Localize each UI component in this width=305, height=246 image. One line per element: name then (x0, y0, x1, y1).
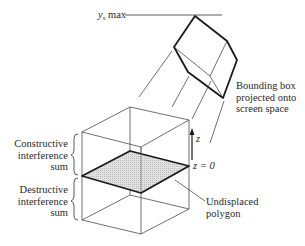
bounding-box-line-1: Bounding box (236, 80, 296, 92)
destructive-label: Destructive interference sum (4, 184, 68, 219)
constructive-line-1: Constructive (4, 138, 68, 150)
bounding-box-line-3: screen space (236, 103, 296, 115)
constructive-brace (71, 134, 78, 175)
undisplaced-polygon-label: Undisplaced polygon (206, 196, 259, 219)
constructive-label: Constructive interference sum (4, 138, 68, 173)
projection-line (192, 81, 211, 119)
constructive-line-3: sum (4, 161, 68, 173)
ys-max-rest: max (105, 9, 126, 20)
destructive-line-2: interference (4, 196, 68, 208)
projection-line (139, 51, 172, 97)
bounding-box-line-2: projected onto (236, 92, 296, 104)
projection-line (210, 101, 224, 143)
projection-line (172, 76, 189, 107)
z-axis-label: z (196, 133, 200, 145)
diagram-canvas: ys max Bounding box projected onto scree… (0, 0, 305, 246)
undisplaced-polygon (82, 151, 189, 193)
z-arrow-head (190, 128, 195, 135)
undisplaced-line-2: polygon (206, 208, 259, 220)
projected-box-inner-edge (210, 41, 227, 76)
constructive-line-2: interference (4, 150, 68, 162)
bounding-box-label: Bounding box projected onto screen space (236, 80, 296, 115)
ys-max-label: ys max (98, 9, 126, 25)
undisplaced-line-1: Undisplaced (206, 196, 259, 208)
destructive-line-1: Destructive (4, 184, 68, 196)
z-zero-label: z = 0 (193, 160, 215, 172)
destructive-line-3: sum (4, 207, 68, 219)
destructive-brace (71, 178, 78, 220)
undisplaced-leader (175, 180, 205, 201)
